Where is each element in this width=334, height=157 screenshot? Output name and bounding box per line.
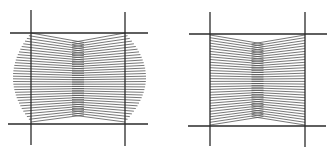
hatch-line [72,89,144,90]
hatch-lines [210,35,305,125]
right-panel-corrected [188,12,327,147]
hatch-line [72,93,143,95]
hatch-line [252,88,306,90]
hatch-line [72,74,146,76]
hatch-line [252,86,306,87]
hatch-line [31,33,84,43]
hatch-line [252,71,306,73]
left-panel-barrel-distortion [8,10,148,146]
hatch-line [252,79,306,80]
hatch-line [252,76,306,77]
hatch-line [210,35,264,44]
hatch-line [72,82,146,83]
distortion-diagram [0,0,334,157]
hatch-line [252,73,306,75]
hatch-line [252,84,306,85]
figure-stage [0,0,334,157]
hatch-line [252,90,306,92]
hatch-line [72,76,146,78]
hatch-line [252,35,306,44]
hatch-line [72,79,146,80]
hatch-line [72,91,144,93]
hatch-lines [13,33,146,122]
hatch-line [72,86,145,87]
